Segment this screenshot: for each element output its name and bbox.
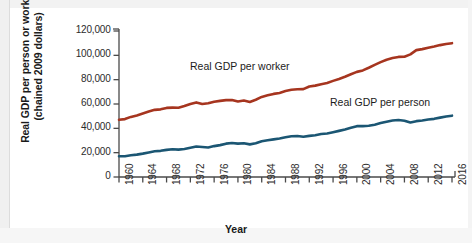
x-tick-label: 1992: [314, 164, 325, 185]
x-tick-label: 1996: [338, 164, 349, 185]
y-tick-label: 0: [45, 170, 111, 181]
x-tick-label: 1972: [195, 164, 206, 185]
x-tick-label: 2008: [409, 164, 420, 185]
x-tick-marks: [119, 177, 452, 183]
x-tick-label: 1960: [124, 164, 135, 185]
worker-series-label: Real GDP per worker: [190, 60, 290, 72]
series-line-real-gdp-per-worker: [119, 43, 452, 120]
y-tick-label: 80,000: [45, 73, 111, 84]
y-tick-label: 100,000: [45, 48, 111, 59]
x-tick-label: 1964: [147, 164, 158, 185]
y-tick-marks: [114, 31, 120, 177]
x-tick-label: 1976: [219, 164, 230, 185]
x-tick-label: 2000: [361, 164, 372, 185]
x-tick-label: 1980: [242, 164, 253, 185]
chart-figure: Real GDP per person or worker (chained 2…: [0, 0, 472, 243]
x-tick-label: 2012: [433, 164, 444, 185]
x-tick-label: 1988: [290, 164, 301, 185]
y-tick-label: 40,000: [45, 121, 111, 132]
x-tick-label: 1984: [266, 164, 277, 185]
y-tick-label: 60,000: [45, 97, 111, 108]
y-tick-label: 20,000: [45, 146, 111, 157]
x-tick-label: 1968: [171, 164, 182, 185]
x-tick-label: 2004: [385, 164, 396, 185]
series-line-real-gdp-per-person: [119, 116, 452, 157]
x-tick-label: 2016: [457, 164, 468, 185]
person-series-label: Real GDP per person: [330, 96, 430, 108]
y-tick-label: 120,000: [45, 24, 111, 35]
x-axis-title: Year: [0, 223, 472, 235]
